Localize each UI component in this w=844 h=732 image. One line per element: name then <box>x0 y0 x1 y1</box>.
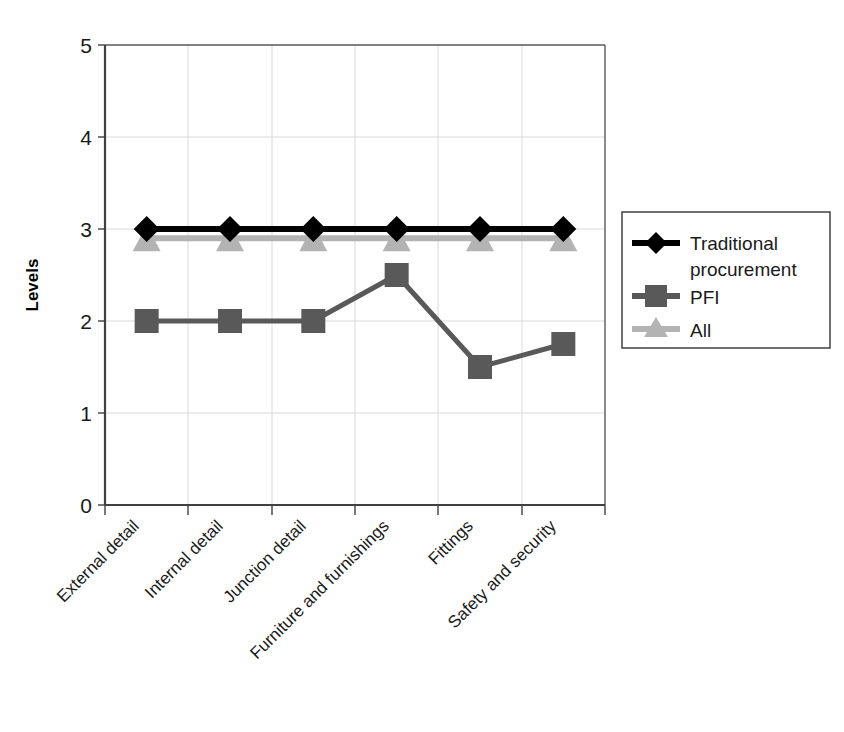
x-axis-ticks <box>105 505 605 515</box>
legend-label-pfi: PFI <box>690 287 720 308</box>
y-tick-label-1: 1 <box>80 402 92 425</box>
chart-canvas: 5 4 3 2 1 0 Levels External detail Inter… <box>0 0 844 732</box>
square-marker <box>218 309 242 333</box>
square-marker <box>385 263 409 287</box>
x-category-label-3: Furniture and furnishings <box>246 516 392 662</box>
y-tick-label-5: 5 <box>80 34 92 57</box>
x-category-label-1: Internal detail <box>141 516 227 602</box>
y-tick-label-0: 0 <box>80 494 92 517</box>
x-category-label-0: External detail <box>53 516 143 606</box>
y-axis-title: Levels <box>23 259 42 312</box>
x-category-label-4: Fittings <box>425 516 477 568</box>
y-tick-label-2: 2 <box>80 310 92 333</box>
y-tick-label-4: 4 <box>80 126 92 149</box>
legend-label-traditional-line1: Traditional <box>690 233 778 254</box>
legend-label-all: All <box>690 320 711 341</box>
square-marker-icon <box>645 285 667 307</box>
square-marker <box>301 309 325 333</box>
square-marker <box>468 355 492 379</box>
x-category-label-2: Junction detail <box>220 516 310 606</box>
y-tick-label-3: 3 <box>80 218 92 241</box>
line-chart: 5 4 3 2 1 0 Levels External detail Inter… <box>0 0 844 732</box>
square-marker <box>135 309 159 333</box>
square-marker <box>551 332 575 356</box>
legend: Traditional procurement PFI All <box>622 212 830 348</box>
legend-label-traditional-line2: procurement <box>690 259 797 280</box>
